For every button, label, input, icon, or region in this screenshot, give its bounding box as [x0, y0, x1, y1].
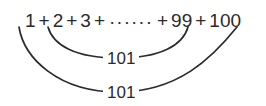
plus-operator-3: +: [91, 11, 108, 30]
inner-pair-sum-label: 101: [103, 50, 139, 67]
gauss-pairing-figure: 1 + 2 + 3 + ······ + 99 + 100 101 101: [0, 0, 266, 106]
expression-term-99: 99: [171, 11, 192, 30]
outer-pair-sum-label: 101: [103, 84, 139, 101]
expression-term-3: 3: [80, 11, 91, 30]
expression-term-2: 2: [53, 11, 64, 30]
plus-operator-4: +: [154, 11, 171, 30]
expression-term-1: 1: [25, 11, 36, 30]
plus-operator-2: +: [63, 11, 80, 30]
expression-ellipsis: ······: [108, 12, 154, 31]
plus-operator-1: +: [36, 11, 53, 30]
expression-term-100: 100: [209, 11, 241, 30]
plus-operator-5: +: [192, 11, 209, 30]
sum-expression: 1 + 2 + 3 + ······ + 99 + 100: [0, 8, 266, 32]
